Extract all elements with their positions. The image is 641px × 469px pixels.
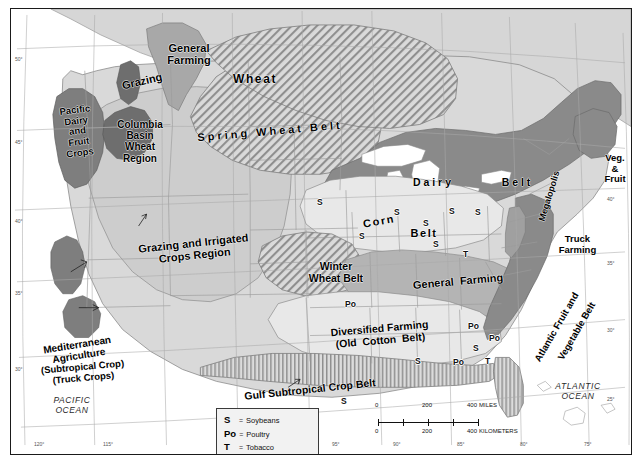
legend-equals-sign: = [239, 414, 243, 428]
latitude-label-right: 30° [607, 327, 615, 333]
symbol-legend: S=SoybeansPo=PoultryT=Tobacco [216, 408, 319, 455]
latitude-label-right: 40° [607, 196, 615, 202]
crop-marker-s: S [317, 197, 323, 207]
legend-row: T=Tobacco [224, 440, 311, 454]
longitude-label-bottom: 75° [584, 441, 592, 447]
map-frame: General FarmingGrazingWheatSpring Wheat … [10, 8, 632, 455]
legend-row: S=Soybeans [224, 413, 311, 427]
columbia-basin-blob-north [117, 61, 141, 105]
longitude-label-bottom: 80° [520, 441, 528, 447]
legend-key: Po [224, 427, 236, 441]
crop-marker-s: S [449, 206, 455, 216]
scale-bar-rule [378, 419, 478, 426]
crop-marker-t: T [485, 356, 490, 366]
legend-key: S [224, 413, 236, 427]
longitude-label-bottom: 90° [393, 441, 401, 447]
scale-unit-label: KILOMETERS [479, 428, 518, 434]
scale-tick-label: 0 [375, 402, 378, 408]
crop-marker-s: S [394, 207, 400, 217]
crop-marker-po: Po [468, 321, 479, 331]
latitude-label-left: 35° [15, 290, 23, 296]
latitude-label-left: 50° [15, 56, 23, 62]
scale-tick-label: 0 [375, 428, 378, 434]
legend-key: T [224, 440, 236, 454]
scale-tick-label: 200 [422, 402, 432, 408]
crop-marker-s: S [473, 343, 479, 353]
legend-equals-sign: = [239, 428, 243, 442]
scale-tick-label: 200 [422, 428, 432, 434]
california-south-blob [63, 296, 101, 338]
crop-marker-s: S [423, 218, 429, 228]
crop-marker-s: S [415, 356, 421, 366]
scale-bar: 0200400MILES 0200400KILOMETERS [375, 402, 499, 440]
crop-marker-po: Po [345, 299, 356, 309]
longitude-label-bottom: 115° [103, 441, 113, 447]
map-vector [11, 9, 631, 454]
legend-value: Poultry [246, 428, 269, 442]
latitude-label-left: 30° [15, 366, 23, 372]
scale-tick-label: 400 [467, 428, 477, 434]
longitude-label-bottom: 95° [332, 441, 340, 447]
crop-marker-s: S [433, 239, 439, 249]
longitude-label-bottom: 85° [457, 441, 465, 447]
latitude-label-right: 25° [607, 396, 615, 402]
legend-value: Soybeans [246, 414, 279, 428]
map-screenshot: General FarmingGrazingWheatSpring Wheat … [0, 0, 641, 469]
map-canvas [11, 9, 631, 454]
crop-marker-s: S [359, 231, 365, 241]
longitude-label-bottom: 120° [34, 441, 44, 447]
legend-value: Tobacco [246, 441, 274, 455]
latitude-label-left: 45° [15, 139, 23, 145]
scale-unit-label: MILES [479, 402, 497, 408]
legend-equals-sign: = [239, 441, 243, 455]
scale-tick-label: 400 [467, 402, 477, 408]
crop-marker-s: S [475, 207, 481, 217]
crop-marker-t: T [463, 249, 468, 259]
legend-row: Po=Poultry [224, 427, 311, 441]
crop-marker-po: Po [489, 333, 500, 343]
crop-marker-po: Po [453, 357, 464, 367]
latitude-label-left: 40° [15, 218, 23, 224]
crop-marker-s: S [341, 396, 347, 406]
latitude-label-right: 35° [607, 260, 615, 266]
